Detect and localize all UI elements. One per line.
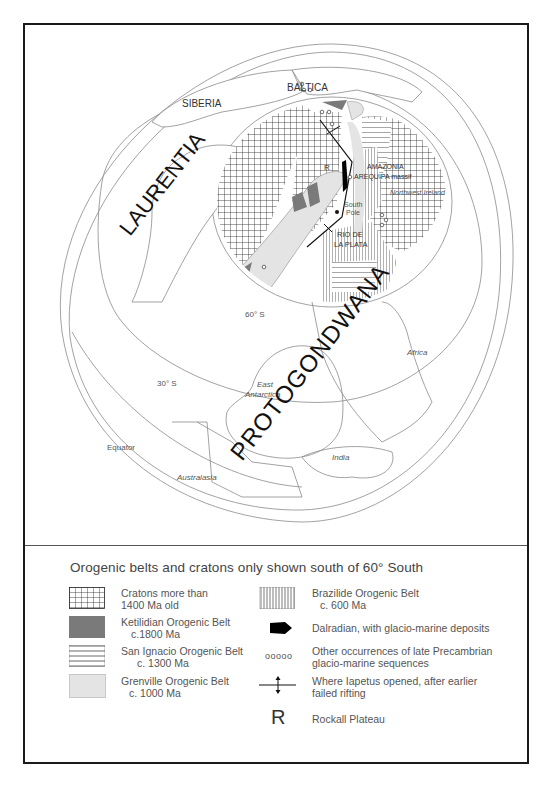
- brazilide-swatch: [259, 587, 295, 609]
- legend: Orogenic belts and cratons only shown so…: [25, 546, 527, 762]
- label-amazonia: AMAZONIA: [367, 163, 404, 170]
- legend-text: Cratons more than: [121, 587, 208, 599]
- legend-text: Other occurrences of late Precambrian: [312, 645, 492, 657]
- label-30s: 30° S: [157, 379, 177, 388]
- legend-text: failed rifting: [312, 688, 477, 700]
- legend-text: Dalradian, with glacio-marine deposits: [312, 622, 489, 634]
- label-equator: Equator: [107, 443, 135, 452]
- label-northwest-ireland: Northwest Ireland: [390, 189, 446, 196]
- legend-text: c. 1300 Ma: [121, 658, 243, 670]
- rockall-symbol: R: [271, 706, 285, 729]
- label-australasia: Australasia: [176, 473, 217, 482]
- label-india: India: [332, 453, 350, 462]
- label-south-pole-2: Pole: [346, 209, 360, 216]
- glacio-marine-circles-icon: ooooo: [265, 651, 293, 661]
- legend-text: c. 600 Ma: [312, 600, 419, 612]
- paleogeographic-map: SIBERIA BALTICA AMAZONIA AREQUIPA massif…: [25, 25, 527, 545]
- san-ignacio-swatch: [69, 645, 105, 667]
- legend-item-dalradian: Dalradian, with glacio-marine deposits: [312, 623, 489, 635]
- figure-frame: SIBERIA BALTICA AMAZONIA AREQUIPA massif…: [23, 23, 529, 764]
- label-rockall: R: [324, 163, 330, 172]
- label-60s: 60° S: [245, 310, 265, 319]
- legend-text: Ketilidian Orogenic Belt: [121, 616, 230, 628]
- legend-text: glacio-marine sequences: [312, 658, 492, 670]
- legend-item-cratons: Cratons more than 1400 Ma old: [121, 588, 208, 611]
- label-arequipa: AREQUIPA massif: [354, 173, 411, 181]
- label-siberia: SIBERIA: [182, 98, 222, 109]
- cratons-swatch: [69, 587, 105, 609]
- legend-text: Rockall Plateau: [312, 713, 385, 725]
- label-south-pole: South: [344, 201, 362, 208]
- legend-text: San Ignacio Orogenic Belt: [121, 645, 243, 657]
- legend-text: Grenville Orogenic Belt: [121, 675, 229, 687]
- ketilidian-swatch: [69, 616, 105, 638]
- legend-item-ketilidian: Ketilidian Orogenic Belt c.1800 Ma: [121, 617, 230, 640]
- legend-item-san-ignacio: San Ignacio Orogenic Belt c. 1300 Ma: [121, 646, 243, 669]
- legend-item-grenville: Grenville Orogenic Belt c. 1000 Ma: [121, 676, 229, 699]
- legend-text: c.1800 Ma: [121, 629, 230, 641]
- label-baltica: BALTICA: [287, 82, 328, 93]
- india: [302, 447, 393, 478]
- legend-text: 1400 Ma old: [121, 600, 208, 612]
- legend-item-iapetus: Where Iapetus opened, after earlier fail…: [312, 676, 477, 699]
- legend-item-rockall: Rockall Plateau: [312, 714, 385, 726]
- legend-text: c. 1000 Ma: [121, 688, 229, 700]
- grenville-swatch: [69, 674, 106, 698]
- legend-item-brazilide: Brazilide Orogenic Belt c. 600 Ma: [312, 588, 419, 611]
- label-rio-de-la-plata-2: LA PLATA: [334, 240, 368, 249]
- legend-text: Brazilide Orogenic Belt: [312, 587, 419, 599]
- iapetus-rift-icon: [259, 674, 297, 696]
- label-rio-de-la-plata: RIO DE: [337, 230, 363, 239]
- legend-title: Orogenic belts and cratons only shown so…: [70, 560, 423, 575]
- label-africa: Africa: [406, 348, 428, 357]
- dalradian-icon: [269, 621, 293, 635]
- legend-text: Where Iapetus opened, after earlier: [312, 675, 477, 687]
- legend-item-precambrian: Other occurrences of late Precambrian gl…: [312, 646, 492, 669]
